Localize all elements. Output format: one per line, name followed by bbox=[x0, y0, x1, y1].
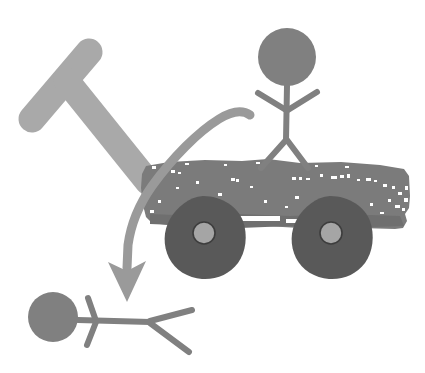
illustration-canvas: Stick figure falling off a cart Grayscal… bbox=[0, 0, 425, 373]
fallen-figure-head bbox=[28, 292, 78, 342]
fallen-figure-torso bbox=[78, 320, 150, 322]
wheel-right-hub bbox=[320, 222, 342, 244]
wheel-left-hub bbox=[193, 222, 215, 244]
standing-figure-torso bbox=[286, 86, 287, 140]
scene-svg: Stick figure falling off a cart Grayscal… bbox=[0, 0, 425, 373]
standing-figure-head bbox=[258, 28, 316, 86]
